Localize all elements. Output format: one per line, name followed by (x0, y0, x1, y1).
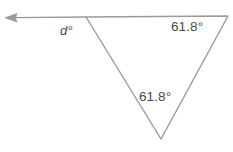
angle-label-exterior-d-text: d° (60, 23, 73, 38)
ray-arrowhead-icon (5, 13, 17, 22)
angle-label-exterior-d: d° (60, 24, 73, 37)
angle-label-bottom-text: 61.8° (139, 89, 171, 104)
extended-ray-line (13, 17, 86, 18)
angle-label-top-right-text: 61.8° (171, 19, 203, 34)
geometry-figure: d° 61.8° 61.8° (0, 0, 233, 152)
angle-label-bottom: 61.8° (139, 90, 171, 104)
angle-label-top-right: 61.8° (171, 20, 203, 34)
triangle-shape (86, 16, 228, 139)
